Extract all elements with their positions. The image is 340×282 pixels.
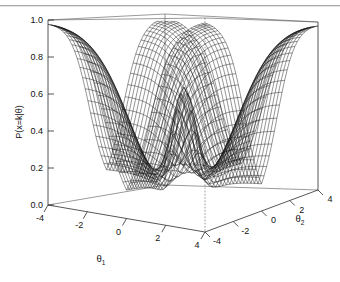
z-tick-label: 0.2 <box>30 163 43 173</box>
figure-canvas: 1.00.80.60.40.20.0 -4-2024 -4-2024 P(x=k… <box>0 0 340 282</box>
y-tick-label: -4 <box>213 236 221 246</box>
y-axis-label-sub: 2 <box>301 219 305 226</box>
surface-mesh <box>48 18 318 190</box>
z-tick-label: 1.0 <box>30 15 43 25</box>
z-tick-label: 0.0 <box>30 200 43 210</box>
x-tick-label: 0 <box>116 227 121 237</box>
y-tick-label: 0 <box>271 215 276 225</box>
x-axis-label: θ1 <box>97 253 106 266</box>
x-tick-label: 2 <box>155 233 160 243</box>
y-tick-label: -2 <box>241 226 249 236</box>
z-tick-label: 0.6 <box>30 89 43 99</box>
z-tick-label: 0.4 <box>30 126 43 136</box>
x-tick-label: -4 <box>36 213 44 223</box>
x-tick-label: -2 <box>75 220 83 230</box>
x-tick-label: 4 <box>194 240 199 250</box>
y-tick-label: 4 <box>327 194 332 204</box>
z-tick-label: 0.8 <box>30 52 43 62</box>
z-axis-label: P(x=k|θ) <box>14 105 24 139</box>
x-axis-label-sub: 1 <box>102 259 106 266</box>
surface-plot-svg: 1.00.80.60.40.20.0 -4-2024 -4-2024 P(x=k… <box>0 0 340 282</box>
y-axis-ticks: -4-2024 <box>205 190 333 246</box>
z-axis-ticks: 1.00.80.60.40.20.0 <box>30 15 54 210</box>
y-axis-label: θ2 <box>296 213 305 226</box>
